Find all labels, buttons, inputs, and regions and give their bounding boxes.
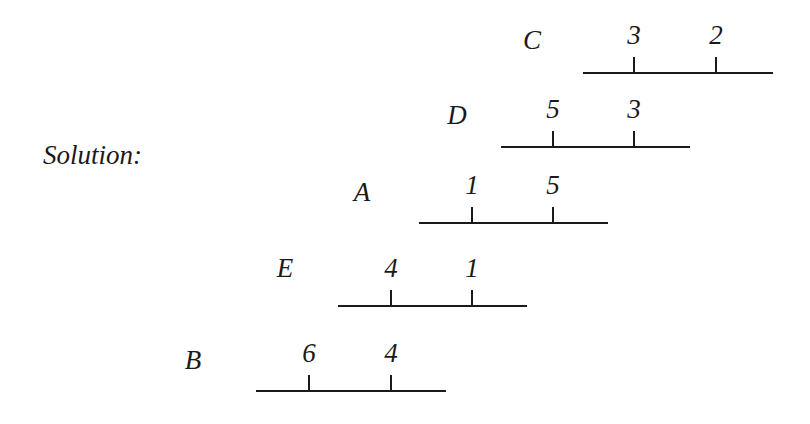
row-letter: C bbox=[523, 27, 541, 54]
tick-mark bbox=[633, 57, 635, 73]
tick-number: 1 bbox=[465, 172, 479, 199]
row-letter: D bbox=[447, 102, 467, 129]
tick-mark bbox=[633, 131, 635, 147]
tick-number: 2 bbox=[709, 22, 723, 49]
tick-mark bbox=[552, 131, 554, 147]
segment-line bbox=[338, 305, 527, 307]
tick-number: 5 bbox=[546, 96, 560, 123]
tick-number: 4 bbox=[384, 340, 398, 367]
tick-mark bbox=[471, 207, 473, 223]
segment-line bbox=[501, 146, 690, 148]
solution-label: Solution: bbox=[43, 142, 142, 169]
tick-number: 5 bbox=[546, 172, 560, 199]
tick-number: 4 bbox=[384, 255, 398, 282]
segment-line bbox=[419, 222, 608, 224]
tick-mark bbox=[390, 290, 392, 306]
tick-mark bbox=[552, 207, 554, 223]
tick-number: 1 bbox=[465, 255, 479, 282]
row-letter: B bbox=[185, 347, 202, 374]
tick-mark bbox=[390, 375, 392, 391]
tick-number: 3 bbox=[627, 22, 641, 49]
row-letter: A bbox=[354, 179, 371, 206]
tick-number: 6 bbox=[302, 340, 316, 367]
segment-line bbox=[583, 72, 773, 74]
row-letter: E bbox=[277, 255, 294, 282]
tick-mark bbox=[471, 290, 473, 306]
tick-mark bbox=[715, 57, 717, 73]
tick-number: 3 bbox=[627, 96, 641, 123]
tick-mark bbox=[308, 375, 310, 391]
segment-line bbox=[256, 390, 446, 392]
